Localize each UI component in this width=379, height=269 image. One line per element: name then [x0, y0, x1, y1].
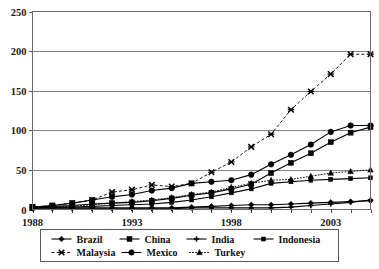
y-tick-label: 200 [11, 46, 27, 57]
data-point-marker [328, 129, 334, 135]
legend-label: Mexico [147, 247, 178, 258]
data-point-marker [349, 177, 353, 181]
chart-legend: BrazilChinaIndiaIndonesiaMalaysiaMexicoT… [41, 230, 339, 262]
data-point-marker [150, 202, 154, 206]
x-tick-label: 1993 [121, 217, 142, 228]
data-point-marker [129, 250, 135, 256]
data-point-marker [328, 140, 333, 145]
x-tick-label: 1988 [22, 217, 43, 228]
data-point-marker [129, 192, 135, 198]
data-point-marker [268, 162, 274, 168]
data-point-marker [209, 195, 213, 199]
data-point-marker [309, 178, 313, 182]
y-tick-label: 50 [16, 165, 27, 176]
y-tick-label: 250 [11, 7, 27, 18]
chart-background [0, 0, 379, 269]
chart-title-clipped [0, 0, 379, 7]
legend-label: Malaysia [77, 247, 116, 258]
legend-label: Indonesia [279, 234, 321, 245]
data-point-marker [348, 130, 353, 135]
data-point-marker [329, 177, 333, 181]
data-point-marker [189, 181, 195, 187]
data-point-marker [190, 198, 194, 202]
data-point-marker [209, 179, 215, 185]
data-point-marker [109, 194, 115, 200]
data-point-marker [348, 123, 354, 129]
data-point-marker [249, 187, 253, 191]
data-point-marker [127, 237, 132, 242]
y-tick-label: 150 [11, 86, 27, 97]
data-point-marker [262, 237, 266, 241]
y-tick-label: 0 [21, 205, 26, 216]
line-chart: 050100150200250 1988199319982003 BrazilC… [0, 0, 379, 269]
data-point-marker [170, 200, 174, 204]
data-point-marker [169, 185, 175, 191]
data-point-marker [308, 151, 313, 156]
legend-label: China [145, 234, 171, 245]
legend-label: Turkey [215, 247, 246, 258]
chart-canvas: 050100150200250 1988199319982003 BrazilC… [0, 0, 379, 269]
data-point-marker [288, 152, 294, 158]
data-point-marker [229, 177, 235, 183]
data-point-marker [308, 142, 314, 148]
legend-label: India [212, 234, 235, 245]
x-tick-label: 2003 [320, 217, 341, 228]
data-point-marker [149, 188, 155, 194]
data-point-marker [229, 191, 233, 195]
data-point-marker [248, 172, 254, 178]
y-tick-label: 100 [11, 125, 27, 136]
data-point-marker [288, 160, 293, 165]
legend-label: Brazil [77, 234, 103, 245]
x-tick-label: 1998 [221, 217, 242, 228]
data-point-marker [269, 171, 274, 176]
